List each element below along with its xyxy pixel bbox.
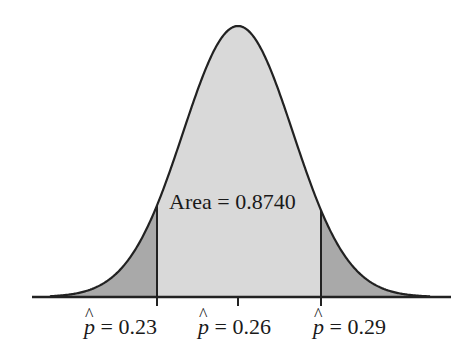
area-annotation: Area = 0.8740 [169,189,296,215]
tick-label-0.26: p = 0.26 [198,314,271,340]
tick-label-0.29: p = 0.29 [313,314,386,340]
tick-label-0.23: p = 0.23 [84,314,157,340]
center-area [157,26,321,297]
normal-curve-chart [0,0,476,360]
